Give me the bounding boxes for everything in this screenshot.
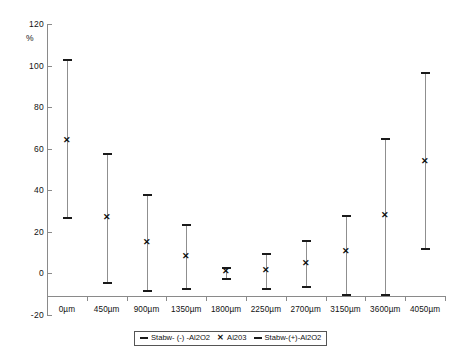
legend-label: Stabw- (-) -Al2O2 [151, 334, 210, 342]
legend-line-icon [254, 337, 262, 339]
error-bar-upper-cap [302, 240, 311, 242]
y-tick-mark [47, 315, 52, 316]
error-bar-lower-cap [222, 278, 231, 280]
data-point-marker: ✕ [342, 246, 350, 255]
y-tick-mark [47, 107, 52, 108]
x-tick-label: 2250µm [251, 305, 281, 314]
error-bar-lower-cap [143, 290, 152, 292]
x-tick-mark [365, 296, 366, 301]
error-bar-upper-cap [182, 224, 191, 226]
error-bar-lower-cap [302, 286, 311, 288]
x-tick-mark [127, 296, 128, 301]
legend-item-stabw-plus: Stabw-(+)-Al2O2 [254, 334, 322, 342]
data-point-marker: ✕ [63, 136, 71, 145]
y-axis-unit-label: % [26, 33, 34, 43]
error-bar-chart: % -20020406080100120 0µm450µm900µm1350µm… [0, 0, 467, 361]
y-tick-label: 40 [34, 185, 44, 195]
legend-item-al203: ✕ Al203 [217, 334, 246, 342]
error-bar-upper-cap [63, 59, 72, 61]
error-bar-upper-cap [262, 253, 271, 255]
x-tick-label: 900µm [134, 305, 160, 314]
error-bar-upper-cap [143, 194, 152, 196]
plot-area: % -20020406080100120 0µm450µm900µm1350µm… [0, 0, 467, 361]
y-axis-line [47, 24, 48, 316]
error-bar-lower-cap [103, 282, 112, 284]
x-tick-mark [47, 296, 48, 301]
y-tick-mark [47, 232, 52, 233]
x-tick-mark [326, 296, 327, 301]
x-tick-mark [286, 296, 287, 301]
x-tick-label: 1800µm [211, 305, 241, 314]
y-tick-label: -20 [31, 310, 44, 320]
legend-label: Stabw-(+)-Al2O2 [265, 334, 322, 342]
error-bar-lower-cap [63, 217, 72, 219]
legend-label: Al203 [227, 334, 246, 342]
x-tick-mark [206, 296, 207, 301]
error-bar-lower-cap [421, 248, 430, 250]
error-bar-upper-cap [103, 153, 112, 155]
data-point-marker: ✕ [381, 211, 389, 220]
y-tick-mark [47, 66, 52, 67]
error-bar-upper-cap [381, 138, 390, 140]
chart-legend: Stabw- (-) -Al2O2 ✕ Al203 Stabw-(+)-Al2O… [134, 331, 327, 346]
x-tick-mark [87, 296, 88, 301]
x-tick-mark [445, 296, 446, 301]
y-tick-label: 0 [39, 268, 44, 278]
data-point-marker: ✕ [143, 238, 151, 247]
data-point-marker: ✕ [262, 266, 270, 275]
error-bar-upper-cap [421, 72, 430, 74]
legend-item-stabw-minus: Stabw- (-) -Al2O2 [140, 334, 210, 342]
x-tick-label: 450µm [94, 305, 120, 314]
error-bar-upper-cap [342, 215, 351, 217]
data-point-marker: ✕ [421, 157, 429, 166]
y-tick-label: 100 [29, 61, 44, 71]
x-tick-mark [246, 296, 247, 301]
x-tick-label: 4050µm [410, 305, 440, 314]
error-bar-lower-cap [182, 288, 191, 290]
data-point-marker: ✕ [103, 213, 111, 222]
x-tick-label: 0µm [59, 305, 75, 314]
legend-line-icon [140, 337, 148, 339]
y-tick-label: 80 [34, 102, 44, 112]
x-tick-label: 1350µm [171, 305, 201, 314]
legend-x-icon: ✕ [217, 334, 224, 342]
y-tick-label: 60 [34, 144, 44, 154]
data-point-marker: ✕ [222, 267, 230, 276]
x-tick-mark [405, 296, 406, 301]
y-tick-label: 20 [34, 227, 44, 237]
x-tick-label: 3600µm [370, 305, 400, 314]
data-point-marker: ✕ [302, 259, 310, 268]
y-tick-mark [47, 24, 52, 25]
y-tick-label: 120 [29, 19, 44, 29]
error-bar-lower-cap [381, 294, 390, 296]
error-bar-lower-cap [262, 288, 271, 290]
error-bar-lower-cap [342, 294, 351, 296]
x-tick-label: 3150µm [330, 305, 360, 314]
y-tick-mark [47, 273, 52, 274]
x-tick-label: 2700µm [291, 305, 321, 314]
y-tick-mark [47, 190, 52, 191]
data-point-marker: ✕ [182, 251, 190, 260]
x-tick-mark [166, 296, 167, 301]
y-tick-mark [47, 149, 52, 150]
